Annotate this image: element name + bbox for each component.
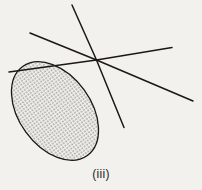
figure-drawing <box>0 0 202 190</box>
figure-caption: (iii) <box>0 166 202 182</box>
figure-container: (iii) <box>0 0 202 190</box>
